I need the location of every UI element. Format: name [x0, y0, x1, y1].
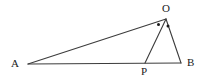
vertex-label-P: P	[141, 66, 147, 77]
segment-AB	[28, 63, 181, 64]
segment-OP	[145, 19, 166, 63]
segment-AO	[28, 19, 166, 64]
geometry-canvas	[0, 0, 205, 82]
angle-dot-POB-icon	[167, 25, 170, 28]
vertex-label-A: A	[11, 58, 19, 69]
vertex-label-O: O	[162, 3, 170, 14]
angle-dot-AOP-icon	[157, 23, 160, 26]
vertex-label-B: B	[187, 57, 194, 68]
geometry-figure: A B O P	[0, 0, 205, 82]
